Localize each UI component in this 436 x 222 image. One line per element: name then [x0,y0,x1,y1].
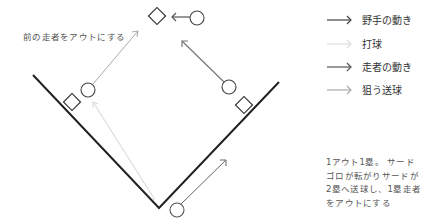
legend-label: 打球 [362,36,382,51]
first-base-icon [236,97,253,114]
dark-arrow-icon [327,14,355,26]
description-line: ゴロが転がりサードが [326,170,421,184]
annotation-text: 前の走者をアウトにする [23,30,125,42]
first-runner-circle-icon [222,80,236,94]
legend-item-target-throw: 狙う送球 [327,82,436,98]
legend-label: 野手の動き [362,12,412,27]
dark-arrow-icon [327,61,355,73]
legend-item-fielder: 野手の動き [327,12,436,28]
legend-label: 狙う送球 [362,82,402,97]
runner-move-arrow [182,41,224,82]
third-base-icon [64,94,81,111]
second-base-icon [149,8,166,25]
third-baseman-circle-icon [81,83,95,97]
legend-item-runner: 走者の動き [327,59,436,75]
play-description: 1アウト1塁。 サード ゴロが転がりサードが 2塁へ送球し、1塁走者 をアウトに… [326,156,421,210]
description-line: をアウトにする [326,197,421,211]
description-line: 2塁へ送球し、1塁走者 [326,183,421,197]
gray-arrow-icon [327,84,355,96]
light-arrow-icon [327,38,355,50]
legend-label: 走者の動き [362,59,412,74]
runner-circle-icon [190,11,204,25]
batted-ball-arrow [93,102,155,200]
legend-item-batted-ball: 打球 [327,36,436,52]
batter-run-arrow [181,160,226,204]
batter-circle-icon [170,203,184,217]
description-line: 1アウト1塁。 サード [326,156,421,170]
